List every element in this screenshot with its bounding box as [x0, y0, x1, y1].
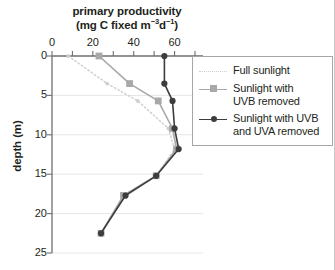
- data-point: [98, 230, 104, 236]
- data-point: [161, 53, 167, 59]
- legend-swatch-gray-square-line-icon: [198, 82, 228, 97]
- data-point: [96, 53, 103, 60]
- legend-label-line2: UVB removed: [233, 95, 300, 107]
- data-point: [122, 192, 128, 198]
- legend-label-full-sunlight: Full sunlight: [233, 64, 290, 78]
- legend-label-line2: and UVA removed: [233, 125, 319, 137]
- legend-label-line1: Full sunlight: [233, 64, 290, 76]
- data-point: [155, 98, 162, 105]
- series-line: [68, 56, 174, 233]
- legend-item-uvb-uva-removed[interactable]: Sunlight with UVB and UVA removed: [193, 110, 332, 140]
- legend-swatch-dark-circle-line-icon: [198, 112, 228, 127]
- chart-legend: Full sunlight Sunlight with UVB removed …: [192, 56, 333, 146]
- legend-label-line1: Sunlight with: [233, 82, 293, 94]
- legend-label-line1: Sunlight with UVB: [233, 112, 319, 124]
- chart-figure: primary productivity (mg C fixed m−3d−1)…: [0, 0, 335, 270]
- data-point: [169, 98, 175, 104]
- legend-label-uvb-removed: Sunlight with UVB removed: [233, 82, 300, 109]
- data-point: [171, 125, 177, 131]
- data-point: [66, 54, 70, 58]
- data-point: [153, 173, 159, 179]
- legend-item-full-sunlight[interactable]: Full sunlight: [193, 62, 332, 80]
- legend-item-uvb-removed[interactable]: Sunlight with UVB removed: [193, 80, 332, 110]
- legend-label-uvb-uva-removed: Sunlight with UVB and UVA removed: [233, 112, 319, 139]
- data-point: [126, 80, 133, 87]
- data-point: [105, 82, 109, 86]
- data-point: [161, 80, 167, 86]
- data-point: [176, 146, 182, 152]
- data-point: [136, 99, 140, 103]
- legend-swatch-dotted-line-icon: [198, 64, 228, 79]
